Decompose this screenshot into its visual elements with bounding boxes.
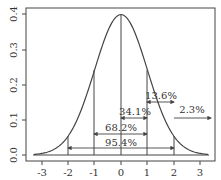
label-2: 2.3% <box>179 104 204 115</box>
x-tick-4: 1 <box>144 167 150 178</box>
x-tick-2: -1 <box>89 167 99 178</box>
label-34: 34.1% <box>119 106 151 117</box>
x-tick-1: -2 <box>63 167 73 178</box>
y-tick-3: 0.3 <box>8 42 19 58</box>
y-tick-0: 0.0 <box>8 147 19 163</box>
y-tick-4: 0.4 <box>8 6 19 22</box>
y-axis-labels: 0.0 0.1 0.2 0.3 0.4 <box>8 6 19 163</box>
normal-distribution-chart: 0.0 0.1 0.2 0.3 0.4 -3 -2 -1 0 1 2 3 <box>0 0 221 180</box>
x-tick-0: -3 <box>37 167 47 178</box>
x-tick-5: 2 <box>171 167 177 178</box>
label-68: 68.2% <box>105 122 137 133</box>
label-95: 95.4% <box>105 137 137 148</box>
label-13: 13.6% <box>145 90 177 101</box>
x-axis-ticks <box>42 161 200 165</box>
x-tick-3: 0 <box>118 167 124 178</box>
x-axis-labels: -3 -2 -1 0 1 2 3 <box>37 167 203 178</box>
x-tick-6: 3 <box>197 167 203 178</box>
y-tick-2: 0.2 <box>8 77 19 93</box>
y-axis-ticks <box>22 14 26 155</box>
y-tick-1: 0.1 <box>8 112 19 128</box>
